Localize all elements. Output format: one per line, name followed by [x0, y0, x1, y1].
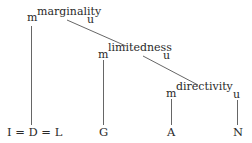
marginality-u-label: u	[87, 14, 94, 25]
marginality-m-label: m	[27, 12, 37, 23]
leaf-n: N	[233, 127, 243, 139]
limitedness-m-label: m	[98, 49, 108, 60]
leaf-g: G	[99, 127, 108, 139]
directivity-m-label: m	[166, 88, 176, 99]
limitedness-u-label: u	[163, 50, 170, 61]
tree-edges	[0, 0, 252, 143]
leaf-a: A	[167, 127, 175, 139]
leaf-idl: I = D = L	[7, 127, 62, 139]
directivity-label: directivity	[176, 81, 233, 92]
directivity-u-label: u	[233, 89, 240, 100]
